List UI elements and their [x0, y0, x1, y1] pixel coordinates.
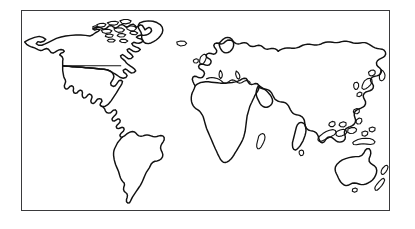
landmass-korea	[354, 82, 359, 89]
landmass-scandinavia	[219, 37, 234, 52]
world-map-drawing	[22, 11, 389, 210]
world-map-figure	[0, 0, 415, 229]
landmass-iceland	[177, 41, 187, 46]
landmass-new-guinea	[353, 138, 375, 145]
landmass-australia	[335, 149, 377, 192]
landmass-asia	[256, 41, 386, 150]
landmass-north-america	[25, 24, 152, 137]
landmass-south-america	[114, 132, 165, 203]
landmass-southeast-asia-islands	[318, 109, 375, 142]
landmass-madagascar	[257, 134, 265, 149]
landmass-africa	[191, 78, 259, 162]
landmass-british-isles	[193, 54, 206, 64]
map-frame-border	[21, 10, 390, 211]
landmass-sri-lanka	[299, 150, 304, 156]
landmass-europe	[192, 40, 278, 86]
